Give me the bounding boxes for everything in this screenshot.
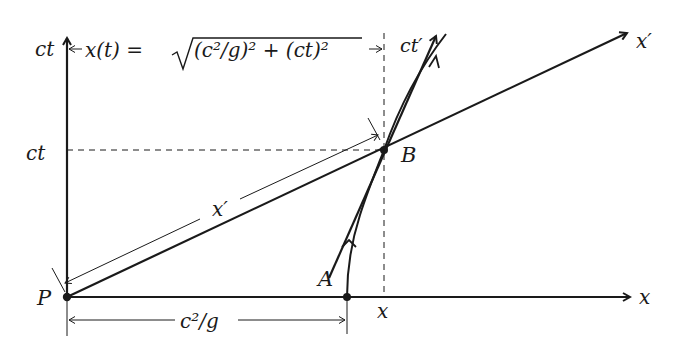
point-a-label: A [316,267,333,291]
bottom-dimension-label: c²/g [180,309,219,333]
formula-lhs: x(t) = [85,38,143,62]
spacetime-diagram: ct x x′ ct′ ct x P A B x′ c²/g x(t) = (c… [0,0,683,352]
hyperbola-worldline [347,34,446,297]
point-a [343,293,351,301]
point-p [63,293,71,301]
x-prime-tick-p [52,268,65,292]
x-tick-label: x [377,299,388,323]
point-p-label: P [36,286,52,310]
x-prime-dimension-line-a [65,219,200,283]
x-axis-label: x [639,285,650,309]
formula-sqrt-body: (c²/g)² + (ct)² [194,38,329,62]
point-b [380,146,388,154]
x-prime-axis [67,33,627,297]
x-prime-dimension-line-b [240,135,378,199]
point-b-label: B [400,143,416,167]
ct-axis-label: ct [35,37,55,61]
x-prime-segment-label: x′ [212,197,228,221]
x-prime-axis-label: x′ [636,29,652,53]
ct-prime-axis-label: ct′ [400,34,423,56]
ct-tick-label: ct [26,141,46,165]
worldline-arrow-upper [429,56,439,68]
